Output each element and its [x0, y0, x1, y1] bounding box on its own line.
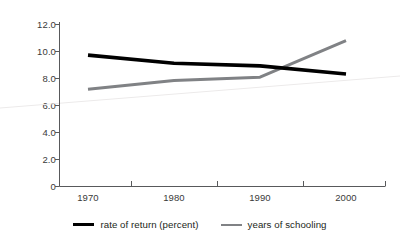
plot-area	[0, 0, 400, 249]
legend-label: rate of return (percent)	[100, 219, 198, 230]
legend-swatch-icon	[73, 223, 94, 226]
legend-item-years-of-schooling: years of schooling	[221, 219, 327, 230]
x-axis-ticks	[132, 181, 386, 187]
y-axis-ticks	[55, 25, 60, 187]
chart-legend: rate of return (percent) years of school…	[0, 219, 400, 230]
legend-item-rate-of-return: rate of return (percent)	[73, 219, 198, 230]
legend-swatch-icon	[221, 224, 242, 226]
chart-container: 12.0 10.0 8.0 6.0 4.0 2.0 0 1970 1980 19…	[0, 0, 400, 249]
legend-label: years of schooling	[248, 219, 327, 230]
